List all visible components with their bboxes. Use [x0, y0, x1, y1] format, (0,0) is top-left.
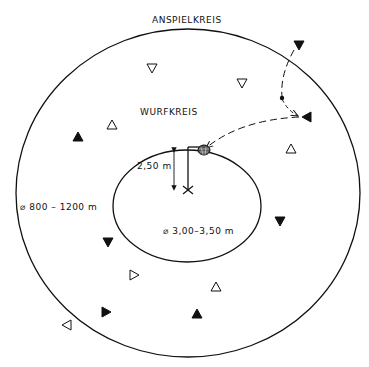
inner-circle-label: WURFKREIS	[140, 107, 198, 117]
filled-triangle-player-icon	[192, 309, 202, 318]
hollow-triangle-player-icon	[237, 79, 247, 88]
hollow-triangle-player-icon	[211, 282, 221, 291]
pass-path-2	[282, 99, 298, 116]
diagram-canvas: ANSPIELKREIS WURFKREIS 2,50 m ⌀ 800 – 12…	[0, 0, 369, 367]
outer-diameter-label: ⌀ 800 – 1200 m	[20, 202, 97, 212]
inner-diameter-label: ⌀ 3,00–3,50 m	[163, 226, 234, 236]
filled-triangle-player-icon	[294, 41, 304, 50]
hollow-triangle-player-icon	[107, 120, 117, 129]
filled-triangle-player-icon	[73, 132, 83, 141]
filled-triangle-player-icon	[103, 238, 113, 247]
hollow-triangle-player-icon	[62, 320, 71, 330]
filled-triangle-player-icon	[102, 307, 111, 317]
hollow-triangle-player-icon	[130, 270, 139, 280]
filled-triangle-player-icon	[302, 112, 311, 122]
pass-point	[280, 96, 284, 100]
throw-path	[206, 117, 299, 148]
field-diagram	[0, 0, 369, 367]
inner-circle	[113, 150, 261, 262]
player-markers	[62, 41, 311, 330]
filled-triangle-player-icon	[275, 217, 285, 226]
basket-icon	[198, 145, 210, 155]
hollow-triangle-player-icon	[147, 64, 157, 73]
basket-height-label: 2,50 m	[137, 161, 172, 171]
outer-circle	[16, 29, 360, 357]
hollow-triangle-player-icon	[286, 144, 296, 153]
outer-circle-label: ANSPIELKREIS	[152, 15, 222, 25]
